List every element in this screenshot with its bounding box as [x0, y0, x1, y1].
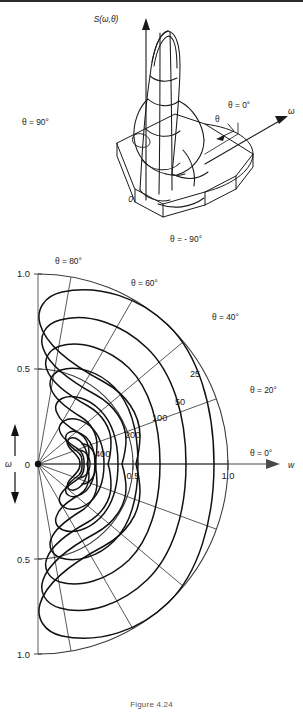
contour-label-25: 25 [190, 369, 200, 379]
spectrum-ridge [134, 31, 208, 207]
surface-theta-0-label: θ = 0° [228, 100, 250, 110]
ray-label-20: θ = 20° [250, 385, 277, 395]
origin-label: 0 [25, 459, 30, 470]
figure-caption: Figure 4.24 [0, 700, 303, 709]
surface-origin-label: 0 [128, 194, 133, 204]
ray-label-0: θ = 0° [250, 448, 272, 458]
origin-marker [35, 461, 41, 467]
ray-label-60: θ = 60° [131, 278, 158, 288]
panel-polar-contours: 1.0 0.5 0 0.5 1.0 0.5 1.0 w ω θ = 80° θ … [0, 246, 303, 714]
y-tick-1-0-top: 1.0 [17, 268, 30, 279]
surface-theta-symbol-label: θ [215, 114, 220, 124]
top-rule [0, 0, 303, 2]
omega-double-arrow [11, 424, 19, 504]
y-tick-1-0-bottom: 1.0 [17, 649, 30, 660]
contour-plot-svg: 1.0 0.5 0 0.5 1.0 0.5 1.0 w ω θ = 80° θ … [0, 246, 303, 714]
x-tick-1-0: 1.0 [221, 470, 234, 481]
contour-label-50: 50 [175, 397, 185, 407]
contour-label-400: 400 [95, 449, 110, 459]
surface-theta-90-label: θ = 90° [22, 117, 49, 127]
surface-z-axis-label: S(ω,θ) [94, 14, 119, 24]
ray-label-80: θ = 80° [55, 256, 82, 266]
y-tick-0-5-top: 0.5 [17, 363, 30, 374]
y-tick-0-5-bottom: 0.5 [17, 554, 30, 565]
surface-omega-axis-label: ω [288, 106, 295, 116]
contour-label-200: 200 [125, 430, 140, 440]
surface-theta-minus90-label: θ = - 90° [170, 234, 202, 244]
panel-3d-surface: S(ω,θ) θ = 90° θ = 0° θ ω 0 θ = - 90° [0, 4, 303, 246]
y-axis-label: ω [5, 459, 12, 469]
ray-label-40: θ = 40° [212, 312, 239, 322]
x-tick-0-5: 0.5 [126, 470, 139, 481]
x-axis-label: w [288, 460, 295, 470]
surface-plot-svg: S(ω,θ) θ = 90° θ = 0° θ ω 0 θ = - 90° [0, 4, 303, 246]
contour-label-100: 100 [152, 413, 167, 423]
